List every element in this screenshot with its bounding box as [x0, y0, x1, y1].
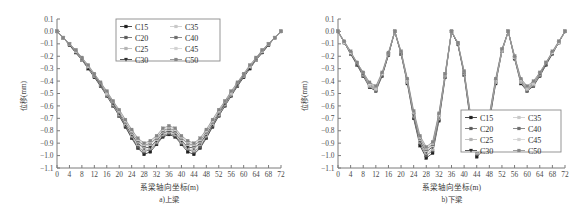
series-marker-C50 — [387, 51, 390, 54]
series-marker-C50 — [419, 134, 422, 137]
y-tick-label: 0.0 — [325, 27, 335, 36]
figure-container: 0.10.0−0.1−0.2−0.3−0.4−0.5−0.6−0.7−0.8−0… — [0, 0, 587, 214]
x-tick-label: 56 — [228, 170, 236, 179]
series-marker-C50 — [280, 30, 283, 33]
x-tick-label: 48 — [203, 170, 211, 179]
series-marker-C50 — [118, 108, 121, 111]
series-marker-C50 — [349, 50, 352, 53]
x-tick-label: 28 — [140, 170, 148, 179]
x-tick-label: 40 — [178, 170, 186, 179]
legend-label-C15: C15 — [480, 114, 493, 123]
y-axis-title: 位移(mm) — [19, 80, 28, 111]
y-tick-label: −0.5 — [321, 89, 335, 98]
series-marker-C50 — [168, 124, 171, 127]
series-marker-C50 — [374, 85, 377, 88]
x-tick-label: 16 — [103, 170, 111, 179]
x-tick-label: 60 — [523, 170, 531, 179]
y-axis-title: 位移(mm) — [300, 80, 309, 111]
x-tick-label: 16 — [385, 170, 393, 179]
x-axis-title: 系梁轴向坐标(m) — [422, 182, 481, 192]
series-marker-C50 — [199, 137, 202, 140]
series-marker-C50 — [211, 118, 214, 121]
legend-box — [116, 19, 220, 61]
series-marker-C50 — [557, 40, 560, 43]
x-tick-label: 48 — [486, 170, 494, 179]
series-marker-C50 — [62, 36, 65, 39]
x-axis-title: 系梁轴向坐标(m) — [140, 182, 199, 192]
x-tick-label: 32 — [435, 170, 443, 179]
legend-marker-C50 — [518, 149, 521, 152]
legend-marker-C35 — [175, 25, 178, 28]
series-marker-C50 — [456, 41, 459, 44]
series-marker-C50 — [412, 109, 415, 112]
x-tick-label: 64 — [536, 170, 544, 179]
legend-marker-C15 — [125, 25, 128, 28]
series-marker-C50 — [255, 56, 258, 59]
legend-label-C50: C50 — [528, 147, 541, 156]
x-tick-label: 0 — [55, 170, 59, 179]
series-marker-C50 — [267, 42, 270, 45]
x-tick-label: 8 — [361, 170, 365, 179]
y-tick-label: −0.7 — [40, 114, 54, 123]
series-marker-C50 — [217, 108, 220, 111]
series-marker-C50 — [99, 81, 102, 84]
y-tick-label: −0.9 — [321, 139, 335, 148]
legend-marker-C45 — [518, 138, 521, 141]
series-marker-C50 — [236, 81, 239, 84]
series-marker-C50 — [463, 70, 466, 73]
x-tick-label: 20 — [397, 170, 405, 179]
series-marker-C50 — [437, 112, 440, 115]
series-marker-C50 — [149, 139, 152, 142]
series-marker-C50 — [507, 30, 510, 33]
legend-marker-C35 — [518, 116, 521, 119]
x-tick-label: 72 — [277, 170, 285, 179]
series-marker-C50 — [343, 40, 346, 43]
series-marker-C50 — [68, 42, 71, 45]
series-marker-C50 — [130, 128, 133, 131]
x-tick-label: 64 — [252, 170, 260, 179]
y-tick-label: −0.7 — [321, 114, 335, 123]
series-marker-C50 — [500, 47, 503, 50]
series-marker-C50 — [174, 127, 177, 130]
x-tick-label: 36 — [165, 170, 173, 179]
legend-label-C30: C30 — [135, 56, 148, 65]
legend-label-C20: C20 — [135, 34, 148, 43]
y-tick-label: −1.1 — [40, 164, 54, 173]
legend-label-C45: C45 — [528, 136, 541, 145]
y-tick-label: −0.4 — [321, 77, 335, 86]
series-marker-C50 — [545, 61, 548, 64]
x-tick-label: 52 — [215, 170, 223, 179]
series-marker-C50 — [261, 49, 264, 52]
y-tick-label: −1.1 — [321, 164, 335, 173]
series-marker-C50 — [87, 63, 90, 66]
x-tick-label: 44 — [190, 170, 198, 179]
legend-label-C35: C35 — [528, 114, 541, 123]
x-tick-label: 4 — [349, 170, 353, 179]
legend-label-C35: C35 — [185, 23, 198, 32]
y-tick-label: −0.8 — [40, 126, 54, 135]
legend-label-C30: C30 — [480, 147, 493, 156]
y-tick-label: −0.2 — [40, 52, 54, 61]
legend-label-C50: C50 — [185, 56, 198, 65]
series-marker-C50 — [242, 72, 245, 75]
legend-marker-C20 — [125, 36, 128, 39]
series-marker-C50 — [450, 30, 453, 33]
x-tick-label: 56 — [511, 170, 519, 179]
x-tick-label: 32 — [153, 170, 161, 179]
x-tick-label: 44 — [473, 170, 481, 179]
series-marker-C50 — [112, 100, 115, 103]
series-marker-C50 — [425, 145, 428, 148]
series-marker-C50 — [192, 142, 195, 145]
x-tick-label: 72 — [561, 170, 569, 179]
y-tick-label: −1.0 — [321, 151, 335, 160]
series-marker-C50 — [526, 85, 529, 88]
legend-marker-C25 — [125, 47, 128, 50]
series-marker-C50 — [444, 72, 447, 75]
y-tick-label: −0.1 — [40, 39, 54, 48]
legend-label-C25: C25 — [480, 136, 493, 145]
series-marker-C50 — [381, 71, 384, 74]
y-tick-label: −0.5 — [40, 89, 54, 98]
series-marker-C50 — [538, 71, 541, 74]
series-marker-C50 — [105, 90, 108, 93]
series-marker-C50 — [368, 81, 371, 84]
